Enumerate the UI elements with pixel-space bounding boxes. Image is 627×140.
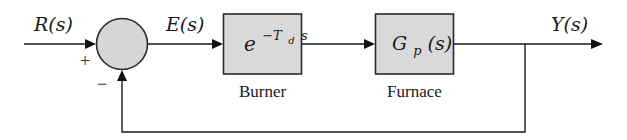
summing-junction-circle	[97, 19, 148, 70]
burner-exp-suffix: s	[301, 28, 308, 43]
plus-sign: +	[80, 51, 90, 71]
summing-junction: + −	[80, 19, 148, 95]
furnace-input-arrowhead-icon	[364, 39, 375, 49]
burner-exp-base: e	[244, 32, 256, 56]
error-arrowhead-icon	[212, 39, 223, 49]
burner-to-furnace-signal	[302, 39, 375, 49]
error-signal-label: E(s)	[165, 13, 204, 35]
feedback-path	[117, 44, 525, 132]
input-signal-label: R(s)	[33, 13, 73, 35]
output-arrowhead-icon	[591, 39, 603, 49]
block-diagram: R(s) + − E(s) e −T d s Burner G p (s)	[0, 0, 627, 140]
minus-sign: −	[97, 74, 107, 94]
furnace-block: G p (s) Furnace	[376, 14, 454, 101]
burner-caption: Burner	[239, 82, 287, 101]
input-arrowhead-icon	[85, 39, 96, 49]
furnace-g: G	[392, 32, 407, 54]
furnace-caption: Furnace	[387, 82, 442, 101]
feedback-line	[122, 44, 525, 132]
error-signal: E(s)	[148, 13, 223, 49]
output-signal-label: Y(s)	[551, 13, 588, 35]
burner-block: e −T d s Burner	[224, 14, 308, 101]
burner-exp-subscript: d	[288, 35, 294, 46]
feedback-arrowhead-icon	[117, 70, 127, 81]
furnace-subscript: p	[413, 43, 422, 58]
furnace-argument: (s)	[428, 32, 453, 54]
output-signal: Y(s)	[454, 13, 603, 49]
burner-exp-prefix: −T	[262, 28, 283, 43]
input-signal: R(s)	[24, 13, 96, 49]
